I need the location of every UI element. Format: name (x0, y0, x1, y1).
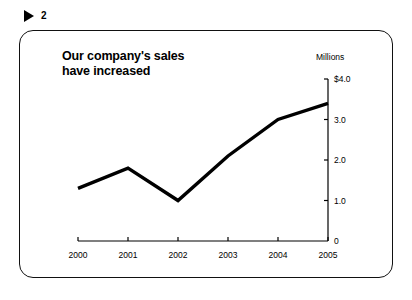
y-axis-tick-label: 2.0 (334, 155, 346, 165)
slide-header: 2 (24, 9, 47, 23)
slide-number: 2 (41, 11, 47, 21)
x-axis-tick-label: 2005 (319, 250, 338, 260)
x-axis-tick-label: 2002 (169, 250, 188, 260)
y-axis-tick-label: 1.0 (334, 196, 346, 206)
x-axis-tick-label: 2000 (69, 250, 88, 260)
x-axis-tick-label: 2001 (119, 250, 138, 260)
data-series-line (78, 103, 328, 200)
chart-card: Our company's sales have increased Milli… (19, 30, 393, 278)
x-axis-tick-label: 2003 (219, 250, 238, 260)
line-chart-plot: 01.02.03.0$4.0 200020012002200320042005 (20, 31, 394, 279)
y-axis-tick-label: $4.0 (334, 74, 351, 84)
chart-area: Our company's sales have increased Milli… (20, 31, 394, 279)
x-axis-tick-label: 2004 (269, 250, 288, 260)
y-axis-tick-label: 0 (334, 236, 339, 246)
triangle-right-icon (24, 10, 34, 22)
y-axis-tick-label: 3.0 (334, 115, 346, 125)
